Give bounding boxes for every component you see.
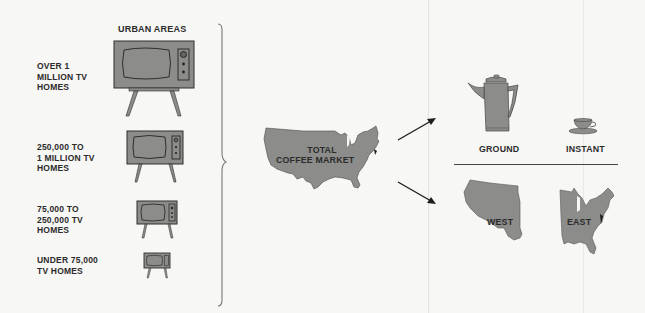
arrow-icon bbox=[396, 116, 438, 142]
tier-label-75k-250k: 75,000 TO250,000 TVHOMES bbox=[37, 204, 83, 236]
tv-icon bbox=[144, 253, 171, 279]
scan-line bbox=[428, 0, 429, 313]
brace-icon bbox=[215, 22, 227, 308]
cup-icon bbox=[568, 117, 600, 135]
tv-icon bbox=[114, 41, 196, 119]
urban-areas-heading: URBAN AREAS bbox=[118, 24, 186, 35]
coffee-market-label: COFFEE MARKET bbox=[276, 155, 354, 166]
tier-label-over-1m: OVER 1MILLION TVHOMES bbox=[37, 61, 87, 93]
ground-label: GROUND bbox=[479, 144, 519, 155]
tv-icon bbox=[137, 201, 178, 240]
tier-label-under-75k: UNDER 75,000TV HOMES bbox=[37, 255, 98, 276]
tv-icon bbox=[127, 131, 184, 183]
west-map-icon bbox=[462, 178, 526, 250]
divider-line bbox=[454, 164, 618, 165]
tier-label-250k-1m: 250,000 TO1 MILLION TVHOMES bbox=[37, 142, 95, 174]
coffee-pot-icon bbox=[466, 73, 530, 135]
scan-line bbox=[583, 0, 584, 313]
instant-label: INSTANT bbox=[566, 144, 605, 155]
arrow-icon bbox=[396, 180, 438, 206]
total-label: TOTAL bbox=[297, 145, 347, 156]
east-label: EAST bbox=[567, 217, 591, 228]
west-label: WEST bbox=[487, 217, 513, 228]
